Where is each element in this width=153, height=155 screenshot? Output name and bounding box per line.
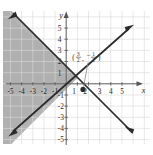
- y-tick-label: -5: [58, 135, 64, 144]
- label-comma: ,: [82, 55, 84, 63]
- intersection-point-dot: [80, 87, 85, 92]
- x-axis-label: x: [141, 86, 146, 95]
- label-x-numerator: 3: [77, 51, 80, 57]
- label-minus-sign: −: [86, 52, 90, 60]
- y-tick-label: -1: [58, 91, 64, 100]
- label-y-numerator: 1: [92, 51, 95, 57]
- graph-canvas: -5 -4 -3 -2 -1 1 2 3 4 5 5 4 3 2 1 -1 -2…: [0, 0, 153, 155]
- x-tick-label: 5: [120, 87, 124, 96]
- y-tick-label: 3: [58, 46, 62, 55]
- x-tick-label: 1: [72, 87, 76, 96]
- y-tick-label: -2: [58, 102, 64, 111]
- y-tick-label: 5: [58, 24, 62, 33]
- x-tick-label: -4: [19, 87, 25, 96]
- x-tick-label: -2: [41, 87, 47, 96]
- label-y-denominator: 2: [92, 57, 95, 63]
- label-x-denominator: 2: [77, 57, 80, 63]
- x-tick-label: -3: [30, 87, 36, 96]
- y-axis-label: y: [58, 11, 63, 20]
- coordinate-plane-figure: -5 -4 -3 -2 -1 1 2 3 4 5 5 4 3 2 1 -1 -2…: [0, 0, 153, 155]
- x-tick-label: -5: [7, 87, 13, 96]
- y-tick-label: -3: [58, 113, 64, 122]
- x-tick-label: 4: [109, 87, 113, 96]
- x-tick-label: 3: [98, 87, 102, 96]
- y-tick-label: 4: [58, 35, 62, 44]
- y-tick-label: -4: [58, 124, 64, 133]
- y-tick-label: 1: [58, 69, 62, 78]
